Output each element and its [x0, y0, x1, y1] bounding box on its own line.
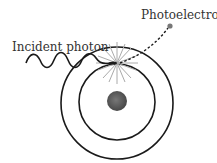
photoelectric-effect-diagram: Incident photon Photoelectron	[0, 0, 217, 163]
incident-photon-label: Incident photon	[12, 40, 109, 54]
incident-photon-wave	[26, 53, 110, 68]
nucleus	[107, 91, 127, 111]
photoelectron	[167, 23, 172, 28]
photoelectron-trajectory	[120, 28, 168, 63]
ejection-point	[109, 61, 117, 64]
photoelectron-label: Photoelectron	[141, 8, 217, 22]
